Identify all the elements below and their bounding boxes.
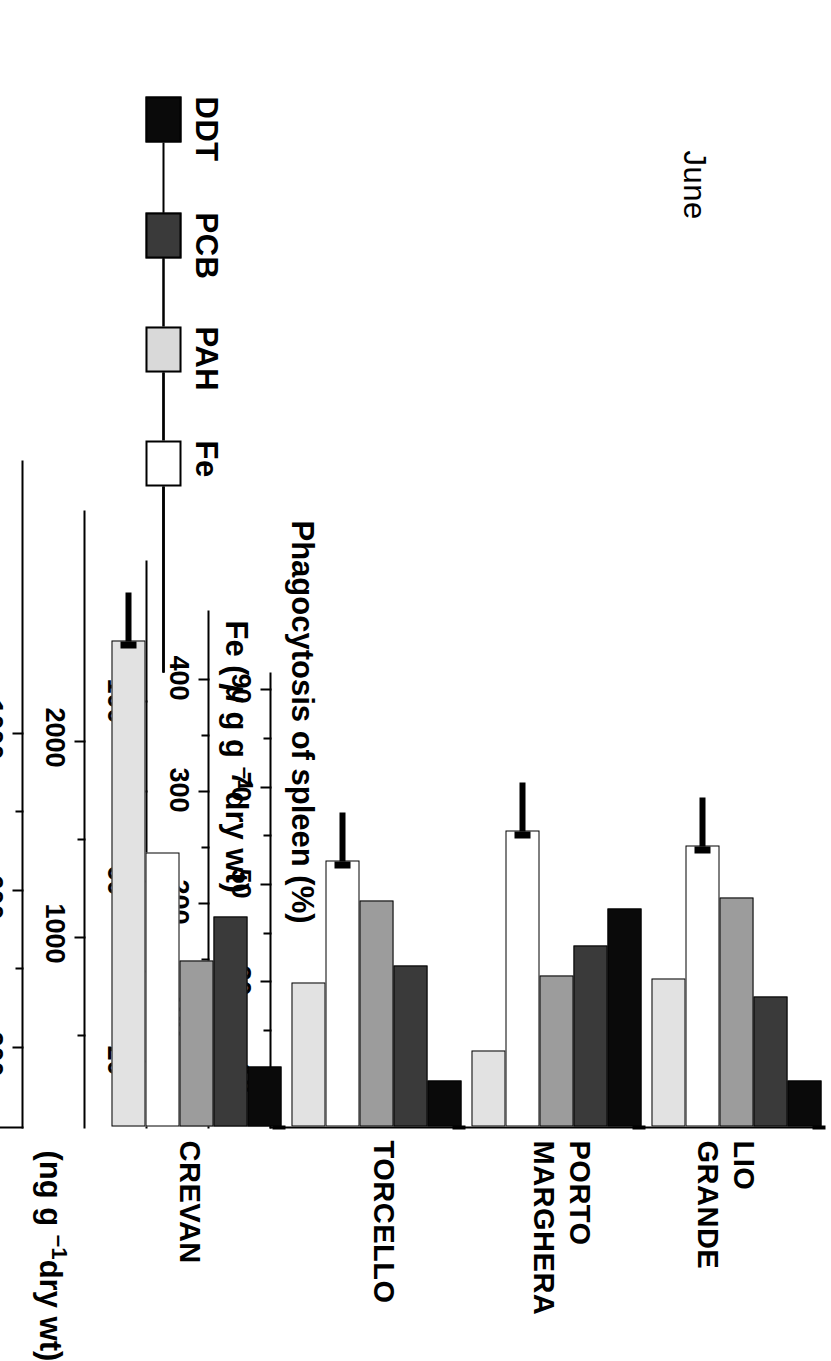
legend-swatch-ddt [145, 96, 181, 142]
bar-crevan-pcb [213, 916, 247, 1126]
axis-tick-phago-20 [263, 1029, 271, 1031]
axis-tick-phago-30 [260, 980, 271, 982]
bar-lio-pah [719, 897, 753, 1126]
legend-label-pcb: PCB [187, 212, 223, 279]
bar-torcello-pah [359, 900, 393, 1126]
axis-tick-phago-50 [260, 883, 271, 885]
bar-porto-pah [539, 975, 573, 1126]
axis-tick-ddt-800 [15, 810, 23, 812]
errorbar-stem [339, 812, 345, 861]
legend-swatch-fe [145, 440, 181, 486]
legend-label-fe: Fe [187, 440, 223, 477]
bar-lio-ddt [787, 1080, 821, 1126]
axis-tick-pcb-2000 [74, 740, 85, 742]
legend-swatch-pah [145, 326, 181, 372]
axis-tick-fe-200 [198, 902, 209, 904]
axis-tick-phago-70 [260, 786, 271, 788]
errorbar-cap [334, 861, 350, 868]
axis-tick-pcb-500 [77, 1034, 85, 1036]
axis-ticklabel-ddt-200: 200 [0, 1031, 7, 1076]
errorbar-torcello-fe [334, 812, 350, 868]
errorbar-lio-fe [694, 797, 710, 853]
axis-tick-pcb-1500 [77, 838, 85, 840]
bar-porto-phagocytosis [471, 1050, 505, 1126]
errorbar-cap [694, 846, 710, 853]
axis-tick-phago-90 [260, 688, 271, 690]
errorbar-stem [519, 782, 525, 831]
axis-tick-ddt-200 [12, 1046, 23, 1048]
axis-title-ddt: (ng g –1dry wt) [32, 1150, 71, 1361]
errorbar-stem [125, 592, 131, 641]
group-label-crevan: CREVAN [172, 1140, 205, 1263]
axis-tick-ddt-1000 [12, 732, 23, 734]
group-label-porto-line2: MARGHERA [526, 1140, 559, 1315]
errorbar-porto-fe [514, 782, 530, 838]
axis-tick-phago-40 [263, 932, 271, 934]
errorbar-stem [699, 797, 705, 846]
errorbar-crevan-phagocytosis [120, 592, 136, 648]
legend-label-ddt: DDT [187, 96, 223, 161]
axis-tick-fe-350 [201, 734, 209, 736]
legend-label-pah: PAH [187, 326, 223, 391]
axis-line-phagocytosis [269, 672, 271, 1128]
axis-title-fe: Fe ( μ g g –1dry wt) [218, 620, 257, 893]
group-label-torcello: TORCELLO [366, 1140, 399, 1303]
bar-porto-pcb [573, 945, 607, 1126]
axis-tick-fe-400 [198, 678, 209, 680]
errorbar-cap [514, 831, 530, 838]
bar-lio-fe [685, 845, 719, 1126]
axis-line-ddt-spine [0, 1126, 23, 1128]
axis-ticklabel-ddt-600: 600 [0, 874, 7, 919]
axis-tick-fe-250 [201, 846, 209, 848]
axis-tick-pcb-1000 [74, 936, 85, 938]
bar-crevan-fe [145, 852, 179, 1126]
axis-ticklabel-pcb-1000: 1000 [38, 903, 69, 963]
axis-ticklabel-fe-300: 300 [162, 767, 193, 812]
bar-crevan-phagocytosis [111, 640, 145, 1126]
bar-lio-pcb [753, 996, 787, 1126]
bar-torcello-pcb [393, 965, 427, 1126]
axis-tick-phago-60 [263, 834, 271, 836]
axis-ticklabel-fe-400: 400 [162, 655, 193, 700]
bar-lio-phagocytosis [651, 978, 685, 1126]
bar-crevan-ddt [247, 1066, 281, 1126]
axis-ticklabel-ddt-1000: 1000 [0, 699, 7, 759]
bar-crevan-pah [179, 960, 213, 1126]
group-label-lio-line2: GRANDE [690, 1140, 723, 1269]
axis-line-ddt [21, 460, 23, 1128]
group-label-lio-line1: LIO [726, 1140, 759, 1190]
axis-tick-ddt-600 [12, 889, 23, 891]
bar-porto-fe [505, 830, 539, 1126]
legend-swatch-pcb [145, 212, 181, 258]
axis-tick-fe-300 [198, 790, 209, 792]
axis-title-phagocytosis: Phagocytosis of spleen (%) [283, 520, 319, 923]
axis-tick-ddt-400 [15, 967, 23, 969]
month-annotation: June [675, 150, 711, 219]
bar-torcello-ddt [427, 1080, 461, 1126]
legend-leader-fe [163, 486, 165, 672]
group-label-porto-line1: PORTO [562, 1140, 595, 1245]
bar-porto-ddt [607, 908, 641, 1126]
errorbar-cap [120, 641, 136, 648]
axis-tick-phago-80 [263, 737, 271, 739]
bar-torcello-phagocytosis [291, 982, 325, 1126]
axis-ticklabel-pcb-2000: 2000 [38, 707, 69, 767]
bar-torcello-fe [325, 860, 359, 1126]
